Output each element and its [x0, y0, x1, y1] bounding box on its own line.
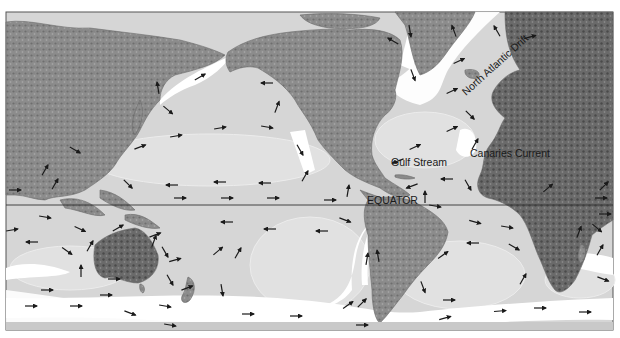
map-svg: EQUATOR Gulf Stream Canaries Current Nor…	[0, 0, 620, 338]
ocean-currents-map: EQUATOR Gulf Stream Canaries Current Nor…	[0, 0, 620, 338]
gulf-stream-label: Gulf Stream	[391, 156, 447, 168]
canaries-current-label: Canaries Current	[470, 147, 550, 159]
equator-label: EQUATOR	[367, 194, 418, 206]
